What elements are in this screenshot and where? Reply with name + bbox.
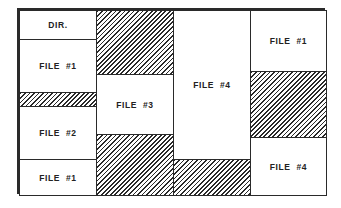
block-free bbox=[19, 92, 97, 107]
block-file-1: FILE #1 bbox=[19, 39, 97, 93]
block-free bbox=[250, 71, 327, 138]
block-label: FILE #1 bbox=[270, 36, 307, 46]
block-label: FILE #4 bbox=[193, 80, 230, 90]
block-label: FILE #1 bbox=[39, 173, 76, 183]
block-file-3: FILE #3 bbox=[96, 74, 174, 135]
block-file-4: FILE #4 bbox=[250, 137, 327, 196]
block-file-1: FILE #1 bbox=[250, 10, 327, 72]
block-free bbox=[173, 159, 251, 196]
block-free bbox=[96, 10, 174, 75]
disk-map: DIR. FILE #1 FILE #2 FILE #1 FILE #3 FIL… bbox=[17, 8, 325, 194]
block-label: DIR. bbox=[48, 20, 67, 30]
block-free bbox=[96, 134, 174, 196]
block-dir: DIR. bbox=[19, 10, 97, 40]
block-file-2: FILE #2 bbox=[19, 106, 97, 160]
block-label: FILE #2 bbox=[39, 128, 76, 138]
block-file-4: FILE #4 bbox=[173, 10, 251, 160]
block-label: FILE #3 bbox=[116, 100, 153, 110]
block-file-1: FILE #1 bbox=[19, 159, 97, 196]
block-label: FILE #1 bbox=[39, 61, 76, 71]
block-label: FILE #4 bbox=[270, 162, 307, 172]
